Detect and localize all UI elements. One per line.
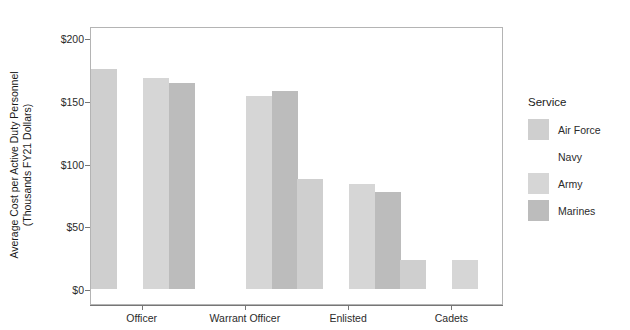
legend: Service Air ForceNavyArmyMarines bbox=[528, 96, 628, 224]
legend-label: Air Force bbox=[558, 124, 601, 136]
y-axis-ticks: $0$50$100$150$200 bbox=[36, 0, 84, 330]
y-tick-label: $100 bbox=[40, 159, 84, 171]
y-tick-label: $150 bbox=[40, 96, 84, 108]
x-tick-label: Cadets bbox=[435, 312, 468, 324]
legend-swatch bbox=[528, 173, 549, 194]
chart-figure: Average Cost per Active Duty Personnel (… bbox=[0, 0, 630, 330]
legend-item[interactable]: Air Force bbox=[528, 116, 628, 143]
x-tick-label: Enlisted bbox=[329, 312, 366, 324]
x-tick-label: Warrant Officer bbox=[210, 312, 281, 324]
x-tick-mark bbox=[348, 305, 349, 310]
legend-swatch bbox=[528, 146, 549, 167]
legend-label: Army bbox=[558, 178, 583, 190]
bar bbox=[349, 184, 375, 289]
y-tick-label: $200 bbox=[40, 33, 84, 45]
legend-entries: Air ForceNavyArmyMarines bbox=[528, 116, 628, 224]
bar bbox=[375, 192, 401, 289]
legend-label: Marines bbox=[558, 205, 595, 217]
bar bbox=[169, 83, 195, 289]
bars-layer bbox=[91, 28, 502, 304]
legend-swatch bbox=[528, 200, 549, 221]
y-axis-title-line2: (Thousands FY21 Dollars) bbox=[20, 71, 33, 258]
y-tick-mark bbox=[85, 290, 90, 291]
y-tick-mark bbox=[85, 227, 90, 228]
y-axis-title-line1: Average Cost per Active Duty Personnel bbox=[8, 71, 20, 258]
legend-title: Service bbox=[528, 96, 628, 108]
bar bbox=[297, 179, 323, 289]
y-tick-label: $50 bbox=[40, 221, 84, 233]
x-axis-line bbox=[90, 305, 503, 306]
y-tick-mark bbox=[85, 165, 90, 166]
y-tick-mark bbox=[85, 102, 90, 103]
legend-item[interactable]: Marines bbox=[528, 197, 628, 224]
plot-panel bbox=[90, 27, 503, 305]
x-tick-label: Officer bbox=[126, 312, 157, 324]
x-tick-mark bbox=[245, 305, 246, 310]
legend-item[interactable]: Army bbox=[528, 170, 628, 197]
bar bbox=[272, 91, 298, 289]
legend-item[interactable]: Navy bbox=[528, 143, 628, 170]
legend-label: Navy bbox=[558, 151, 582, 163]
bar bbox=[452, 260, 478, 289]
y-tick-mark bbox=[85, 39, 90, 40]
x-tick-mark bbox=[142, 305, 143, 310]
y-tick-label: $0 bbox=[40, 284, 84, 296]
bar bbox=[143, 78, 169, 289]
y-axis-title: Average Cost per Active Duty Personnel (… bbox=[0, 0, 40, 330]
legend-swatch bbox=[528, 119, 549, 140]
bar bbox=[246, 96, 272, 289]
bar bbox=[400, 260, 426, 289]
bar bbox=[91, 69, 117, 289]
x-tick-mark bbox=[451, 305, 452, 310]
